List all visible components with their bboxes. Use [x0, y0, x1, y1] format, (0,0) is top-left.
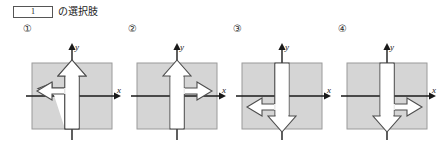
x-axis-label: x — [221, 85, 226, 95]
diagram-1: x y — [18, 36, 122, 148]
diagram-2: x y — [123, 36, 227, 148]
question-header: 1 の選択肢 — [13, 4, 98, 19]
diagram-4-svg: x y — [333, 36, 437, 148]
flow-arrow-joint-mask — [276, 64, 289, 115]
option-marker-1: ① — [23, 24, 32, 34]
option-1[interactable]: ① x y — [18, 24, 122, 148]
option-2[interactable]: ② x y — [123, 24, 227, 148]
x-axis-label: x — [326, 85, 331, 95]
x-axis-label: x — [431, 85, 436, 95]
option-marker-3: ③ — [233, 24, 242, 34]
y-axis-label: y — [179, 42, 184, 52]
option-marker-2: ② — [128, 24, 137, 34]
diagram-3-svg: x y — [228, 36, 332, 148]
diagram-1-svg: x y — [18, 36, 122, 148]
flow-arrow-joint-mask — [381, 64, 394, 115]
header-label: の選択肢 — [58, 7, 98, 17]
option-4[interactable]: ④ x y — [333, 24, 437, 148]
x-axis-label: x — [116, 85, 121, 95]
blank-number-text: 1 — [31, 8, 35, 16]
diagram-2-svg: x y — [123, 36, 227, 148]
diagram-4: x y — [333, 36, 437, 148]
y-axis-label: y — [74, 42, 79, 52]
blank-number-box: 1 — [13, 6, 53, 18]
y-axis-label: y — [284, 42, 289, 52]
option-marker-4: ④ — [338, 24, 347, 34]
diagram-3: x y — [228, 36, 332, 148]
flow-arrow-joint-mask — [171, 77, 184, 128]
option-3[interactable]: ③ x y — [228, 24, 332, 148]
options-row: ① x y ② — [0, 24, 443, 148]
y-axis-label: y — [389, 42, 394, 52]
flow-arrow-joint-mask — [66, 77, 79, 128]
